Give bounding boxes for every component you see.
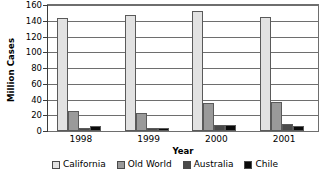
y-axis-tick-label: 20	[12, 111, 42, 120]
legend-swatch-icon	[117, 161, 125, 169]
y-axis-tick-label: 80	[12, 64, 42, 73]
bar-chile-2000[interactable]	[225, 125, 236, 131]
legend-item-chile[interactable]: Chile	[244, 160, 278, 169]
y-axis-tick-label: 60	[12, 80, 42, 89]
bar-california-2001[interactable]	[260, 17, 271, 131]
bar-australia-2000[interactable]	[214, 125, 225, 131]
bar-group	[116, 5, 184, 131]
x-axis-tick-label: 2000	[186, 134, 246, 144]
bar-chile-1999[interactable]	[158, 128, 169, 131]
y-axis-tick-label: 140	[12, 17, 42, 26]
bar-old-world-1998[interactable]	[68, 111, 79, 131]
bar-old-world-1999[interactable]	[136, 113, 147, 131]
y-axis-tick-label: 40	[12, 96, 42, 105]
bar-chile-1998[interactable]	[90, 126, 101, 132]
legend-item-australia[interactable]: Australia	[183, 160, 234, 169]
plot-area	[47, 5, 319, 132]
bar-group	[48, 5, 116, 131]
legend-label: California	[63, 160, 106, 169]
legend-item-california[interactable]: California	[52, 160, 106, 169]
y-axis-tick-label: 0	[12, 127, 42, 136]
x-axis-tick-label: 1998	[51, 134, 111, 144]
chart-legend: CaliforniaOld WorldAustraliaChile	[0, 160, 330, 169]
y-axis-tick-label: 160	[12, 1, 42, 10]
y-axis-tick-label: 100	[12, 48, 42, 57]
bar-california-2000[interactable]	[192, 11, 203, 131]
y-axis-tick-label: 120	[12, 33, 42, 42]
bar-chart: Million Cases 020406080100120140160 1998…	[0, 0, 330, 178]
bar-group	[184, 5, 252, 131]
bar-old-world-2000[interactable]	[203, 103, 214, 131]
bar-old-world-2001[interactable]	[271, 102, 282, 131]
legend-swatch-icon	[183, 161, 191, 169]
bar-australia-1999[interactable]	[147, 128, 158, 131]
x-axis-tick-label: 1999	[119, 134, 179, 144]
legend-label: Australia	[194, 160, 234, 169]
legend-label: Old World	[128, 160, 172, 169]
gridline	[48, 131, 319, 132]
bar-california-1999[interactable]	[125, 15, 136, 131]
x-axis-tick-label: 2001	[254, 134, 314, 144]
legend-swatch-icon	[52, 161, 60, 169]
bar-group	[251, 5, 319, 131]
x-axis-title: Year	[47, 146, 319, 156]
legend-item-old-world[interactable]: Old World	[117, 160, 172, 169]
bar-australia-1998[interactable]	[79, 128, 90, 131]
legend-label: Chile	[255, 160, 278, 169]
bar-australia-2001[interactable]	[282, 124, 293, 131]
bar-chile-2001[interactable]	[293, 126, 304, 132]
bar-california-1998[interactable]	[57, 18, 68, 131]
legend-swatch-icon	[244, 161, 252, 169]
